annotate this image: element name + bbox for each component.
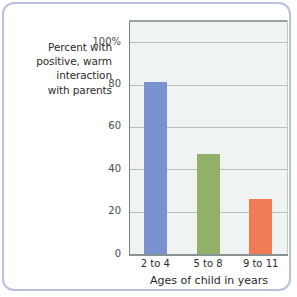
y-axis-tick-label: 0 — [87, 248, 121, 259]
bar — [249, 199, 272, 254]
plot-top-border — [129, 20, 288, 22]
y-axis-spine — [129, 21, 130, 255]
chart-plot-area — [129, 21, 287, 254]
x-axis-tick-label: 5 to 8 — [178, 258, 238, 269]
figure-frame: Percent with positive, warm interaction … — [2, 2, 291, 291]
y-axis-tick-label: 40 — [87, 163, 121, 174]
gridline — [129, 42, 287, 43]
bar — [197, 154, 220, 254]
plot-right-border — [287, 20, 288, 255]
bar — [144, 82, 167, 254]
y-axis-tick-label: 80 — [87, 78, 121, 89]
y-axis-tick-label: 20 — [87, 205, 121, 216]
x-axis-tick-label: 2 to 4 — [125, 258, 185, 269]
x-axis-spine — [129, 254, 288, 256]
y-axis-caption-line-2: positive, warm — [12, 54, 112, 68]
y-axis-tick-label: 60 — [87, 120, 121, 131]
y-axis-tick-label: 100% — [87, 36, 121, 47]
x-axis-title: Ages of child in years — [129, 274, 289, 287]
x-axis-tick-label: 9 to 11 — [231, 258, 291, 269]
